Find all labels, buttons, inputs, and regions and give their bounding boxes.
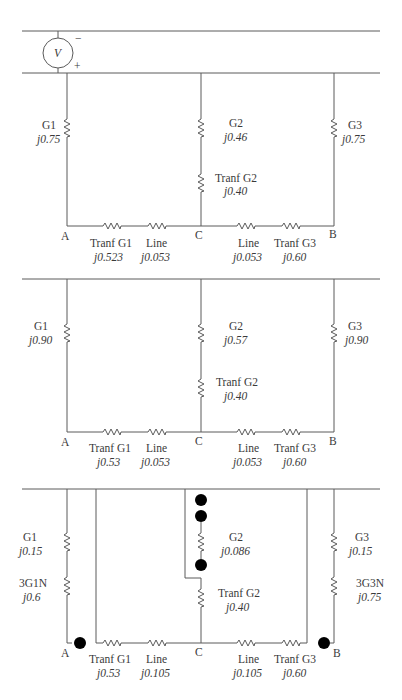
node-c: C [195,646,203,658]
series-label: Line [238,237,259,249]
tg2-value: j0.40 [224,601,250,614]
resistor-icon [145,640,168,646]
series-value: j0.53 [95,456,121,469]
open-circuit-dot [195,559,207,571]
g3-value: j0.75 [340,133,366,146]
open-circuit-dot [195,510,207,522]
voltage-source-icon: V − + [43,31,82,73]
resistor-icon [234,640,257,646]
open-circuit-dot [74,637,86,649]
g1n-label: 3G1N [19,577,48,589]
resistor-icon [331,531,337,553]
series-value: j0.105 [139,667,170,680]
panel-negative-sequence: G1 j0.90 G2 j0.57 Tranf G2 j0.40 G3 j0.9… [22,279,380,469]
series-value: j0.60 [281,667,307,680]
series-label: Tranf G1 [90,237,132,249]
g2-label: G2 [229,320,243,332]
tg2-label: Tranf G2 [215,172,257,184]
resistor-icon [64,531,70,553]
resistor-icon [331,575,337,597]
series-label: Line [146,653,167,665]
g2-label: G2 [229,531,243,543]
series-label: Tranf G1 [89,442,131,454]
g1-value: j0.15 [17,545,43,558]
node-b: B [333,647,341,659]
series-label: Line [146,442,167,454]
series-value: j0.105 [231,667,262,680]
series-value: j0.60 [281,251,307,264]
node-a: A [61,436,70,448]
g1n-value: j0.6 [21,591,41,604]
sequence-network-diagram: V − + G1 j0.75 G2 j0.46 Tranf G2 j0.40 G… [0,0,402,700]
series-label: Line [146,237,167,249]
tg2-label: Tranf G2 [216,376,258,388]
resistor-icon [198,117,204,139]
series-value: j0.053 [231,251,262,264]
series-value: j0.53 [95,667,121,680]
resistor-icon [234,223,257,229]
series-label: Line [238,442,259,454]
g1-value: j0.75 [35,133,61,146]
resistor-icon [100,640,123,646]
series-label: Line [238,653,259,665]
series-value: j0.053 [139,251,170,264]
series-label: Tranf G3 [274,237,316,249]
resistor-icon [198,531,204,553]
g1-label: G1 [42,119,56,131]
g1-label: G1 [23,531,37,543]
open-circuit-dot [318,637,330,649]
source-symbol: V [54,47,63,59]
resistor-icon [279,429,302,435]
source-minus: − [75,32,82,44]
resistor-icon [279,640,302,646]
resistor-icon [145,429,168,435]
series-value: j0.523 [92,251,123,264]
resistor-icon [64,322,70,344]
resistor-icon [145,223,168,229]
resistor-icon [331,117,337,139]
series-label: Tranf G3 [274,653,316,665]
resistor-icon [100,429,123,435]
g2-value: j0.086 [219,545,250,558]
node-b: B [329,228,337,240]
node-c: C [195,229,203,241]
g1-label: G1 [34,320,48,332]
series-label: Tranf G1 [89,653,131,665]
resistor-icon [279,223,302,229]
panel-positive-sequence: V − + G1 j0.75 G2 j0.46 Tranf G2 j0.40 G… [22,31,380,264]
resistor-icon [198,587,204,609]
g3-label: G3 [355,531,369,543]
node-a: A [61,647,70,659]
series-value: j0.60 [281,456,307,469]
tg2-label: Tranf G2 [218,587,260,599]
resistor-icon [198,322,204,344]
node-b: B [329,435,337,447]
node-a: A [61,230,70,242]
resistor-icon [331,322,337,344]
g3-label: G3 [348,320,362,332]
series-value: j0.053 [231,456,262,469]
series-value: j0.053 [139,456,170,469]
resistor-icon [198,377,204,399]
g2-value: j0.46 [222,131,248,144]
tg2-value: j0.40 [222,390,248,403]
g2-label: G2 [229,117,243,129]
series-label: Tranf G3 [274,442,316,454]
tg2-value: j0.40 [222,185,248,198]
g3-value: j0.15 [347,545,373,558]
panel-zero-sequence: G1 j0.15 3G1N j0.6 G2 j0.086 Tranf G2 j0… [17,489,385,680]
resistor-icon [64,575,70,597]
g2-value: j0.57 [222,334,249,347]
resistor-icon [100,223,123,229]
g3-value: j0.90 [343,334,369,347]
g3n-value: j0.75 [356,591,382,604]
g1-value: j0.90 [27,334,53,347]
resistor-icon [234,429,257,435]
source-plus: + [74,60,81,72]
resistor-icon [198,172,204,194]
open-circuit-dot [195,494,207,506]
resistor-icon [64,117,70,139]
g3n-label: 3G3N [356,577,385,589]
g3-label: G3 [348,119,362,131]
node-c: C [195,435,203,447]
